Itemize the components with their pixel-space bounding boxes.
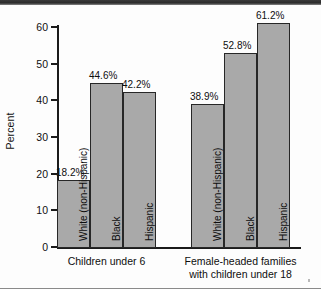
y-tick-label-50: 50 [0, 59, 48, 69]
scan-bottom-rule [0, 288, 321, 289]
scan-corner-mark [308, 279, 310, 282]
bar-value-label: 44.6% [89, 71, 117, 81]
bar-category-label: Hispanic [279, 203, 289, 241]
group-caption-2: Female-headed families with children und… [171, 255, 311, 280]
y-tick-50 [51, 63, 57, 65]
y-tick-label-30: 30 [0, 132, 48, 142]
bar-value-label: 52.8% [223, 41, 251, 51]
group-caption-1: Children under 6 [37, 255, 177, 268]
bar-value-label: 38.9% [190, 92, 218, 102]
y-tick-label-20: 20 [0, 169, 48, 179]
bar-category-label: Hispanic [145, 203, 155, 241]
y-tick-label-60: 60 [0, 22, 48, 32]
bar-chart-figure: Percent 0102030405060 18.2%White (non-Hi… [0, 5, 321, 288]
y-tick-label-10: 10 [0, 205, 48, 215]
bar-value-label: 61.2% [256, 11, 284, 21]
bar-category-label: White (non-Hispanic) [79, 148, 89, 241]
y-tick-label-0: 0 [0, 242, 48, 252]
bar-value-label: 42.2% [122, 80, 150, 90]
y-tick-30 [51, 136, 57, 138]
y-tick-40 [51, 99, 57, 101]
bar-category-label: Black [112, 217, 122, 241]
y-tick-label-40: 40 [0, 95, 48, 105]
y-axis-title: Percent [4, 99, 16, 163]
y-tick-60 [51, 26, 57, 28]
bar-category-label: White (non-Hispanic) [213, 148, 223, 241]
bar-category-label: Black [246, 217, 256, 241]
